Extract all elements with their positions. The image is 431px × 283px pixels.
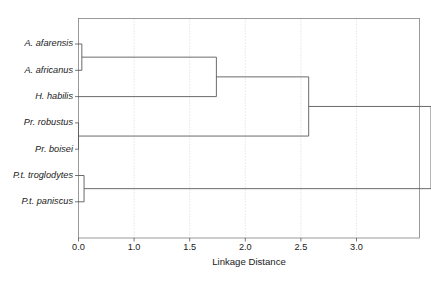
x-tick-label-0: 0.0	[72, 242, 85, 252]
leaf-label-6: P.t. paniscus	[22, 196, 74, 206]
x-tick-label-5: 3.0	[350, 242, 363, 252]
leaf-label-5: P.t. troglodytes	[13, 170, 74, 180]
x-tick-label-4: 2.5	[295, 242, 308, 252]
dendrogram-chart: 0.01.01.52.02.53.0 A. afarensisA. africa…	[0, 0, 431, 283]
leaf-label-4: Pr. boisei	[35, 144, 74, 154]
dendrogram-svg: 0.01.01.52.02.53.0 A. afarensisA. africa…	[0, 0, 431, 283]
dendrogram-link-m2	[78, 123, 79, 149]
x-tick-label-2: 1.5	[183, 242, 196, 252]
leaf-label-0: A. afarensis	[23, 38, 73, 48]
leaf-label-1: A. africanus	[23, 65, 73, 75]
x-tick-label-3: 2.0	[239, 242, 252, 252]
x-tick-label-1: 1.0	[128, 242, 141, 252]
leaf-label-2: H. habilis	[35, 91, 73, 101]
x-axis-title: Linkage Distance	[212, 256, 286, 267]
leaf-label-3: Pr. robustus	[24, 117, 74, 127]
